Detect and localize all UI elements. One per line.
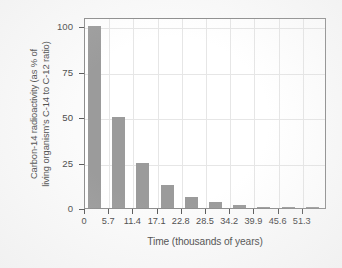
x-tick-mark [253,209,254,214]
x-tick-mark [108,209,109,214]
bar [136,163,149,208]
y-tick-mark [79,118,84,119]
y-tick-label: 0 [49,203,73,214]
x-tick-mark [278,209,279,214]
bar [112,117,125,208]
plot-area [84,18,326,209]
x-tick-mark [132,209,133,214]
bar [161,185,174,208]
x-tick-mark [157,209,158,214]
chart-figure: Carbon-14 radioactivity (as % of living … [0,0,342,268]
x-tick-label: 51.3 [287,216,317,226]
y-tick-label: 50 [49,112,73,123]
y-tick-label: 100 [49,21,73,32]
y-tick-mark [79,164,84,165]
y-tick-mark [79,27,84,28]
y-tick-label: 75 [49,67,73,78]
x-tick-mark [205,209,206,214]
y-tick-mark [79,73,84,74]
x-axis-title: Time (thousands of years) [84,236,326,247]
x-tick-mark [181,209,182,214]
x-tick-mark [302,209,303,214]
bar [185,197,198,208]
bar [306,207,319,208]
bar [257,207,270,208]
bar-series [85,19,325,208]
bar [209,202,222,208]
y-axis-title-line-1: Carbon-14 radioactivity (as % of [28,49,40,179]
x-tick-mark [229,209,230,214]
bar [282,207,295,208]
x-tick-mark [84,209,85,214]
bar [233,205,246,208]
y-tick-label: 25 [49,158,73,169]
bar [88,26,101,208]
